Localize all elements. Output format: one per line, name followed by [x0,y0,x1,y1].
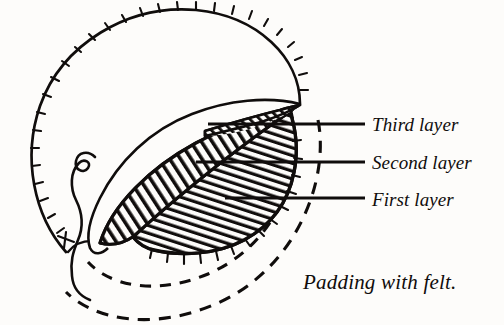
label-first-layer: First layer [372,190,454,209]
figure-caption: Padding with felt. [303,272,457,293]
label-third-layer: Third layer [372,115,458,134]
padding-with-felt-figure: Third layer Second layer First layer Pad… [0,0,504,325]
label-second-layer: Second layer [372,153,472,172]
